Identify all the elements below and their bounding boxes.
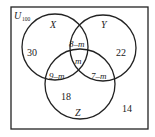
region-y-z: 7–m: [91, 71, 107, 81]
region-x-y-z: m: [75, 56, 82, 66]
universe-size: 100: [22, 16, 31, 22]
region-z-only: 18: [61, 91, 71, 102]
region-outside: 14: [122, 103, 132, 114]
region-x-z: 9–m: [49, 71, 65, 81]
region-x-y: 8–m: [69, 39, 85, 49]
set-x-label: X: [49, 19, 57, 30]
universe-label: U: [14, 10, 22, 21]
region-x-only: 30: [27, 47, 37, 58]
venn-diagram: U 100 X Y Z 30 22 18 8–m 9–m 7–m m 14: [0, 0, 155, 137]
set-z-label: Z: [75, 107, 81, 118]
set-y-label: Y: [101, 19, 108, 30]
region-y-only: 22: [116, 47, 126, 58]
